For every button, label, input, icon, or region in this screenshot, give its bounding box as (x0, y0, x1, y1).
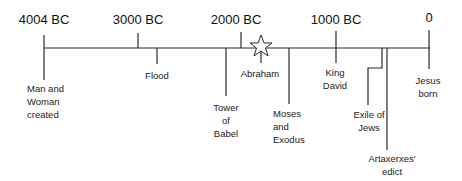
event-label-david: King David (323, 66, 347, 92)
event-label-flood: Flood (145, 69, 169, 82)
era-label-0: 0 (425, 10, 432, 26)
event-label-creation: Man and Woman created (27, 82, 64, 121)
event-label-moses: Moses and Exodus (273, 107, 305, 146)
era-label-3000bc: 3000 BC (113, 12, 164, 28)
era-label-4004bc: 4004 BC (19, 12, 70, 28)
event-label-exile: Exile of Jews (353, 108, 384, 134)
tick-exile (368, 48, 382, 105)
era-label-2000bc: 2000 BC (211, 12, 262, 28)
event-label-jesus: Jesus born (416, 74, 441, 100)
event-label-artaxerxes: Artaxerxes' edict (368, 152, 415, 178)
event-label-babel: Tower of Babel (213, 101, 238, 140)
event-label-abraham: Abraham (241, 67, 280, 80)
era-label-1000bc: 1000 BC (311, 12, 362, 28)
